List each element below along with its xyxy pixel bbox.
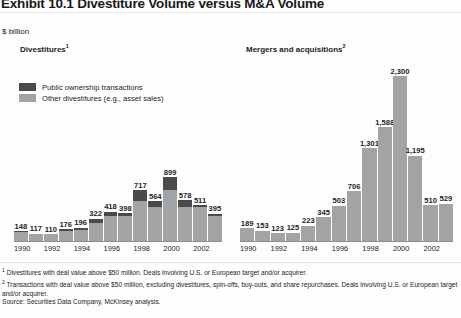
x-tick-label: 1992 xyxy=(271,242,287,256)
bar-segment-other-divestitures xyxy=(118,216,132,242)
divestitures-bars: 1481171101761963224183987175648995785113… xyxy=(14,52,222,242)
divestitures-x-tick-labels: 1990-1992-1994-1996-1998-2000-2002- xyxy=(14,242,222,256)
bar-value-label: 706 xyxy=(348,183,361,191)
bar-column: 153 xyxy=(255,52,269,242)
footnote-marker-2: 2 xyxy=(342,43,345,49)
bar-column: 345 xyxy=(316,52,330,242)
bar-value-label: 176 xyxy=(59,221,72,229)
bar-column: 510 xyxy=(423,52,437,242)
divestitures-bar-chart: 1481171101761963224183987175648995785113… xyxy=(14,52,222,242)
footnote-marker-1: 1 xyxy=(66,43,69,49)
bar-value-label: 1,588 xyxy=(375,119,394,127)
bar-value-label: 511 xyxy=(194,197,206,205)
footnote-1: 1 Divestitures with deal value above $50… xyxy=(2,266,459,278)
bar-column: 511 xyxy=(193,52,207,242)
bar-column: 223 xyxy=(301,52,315,242)
bar-segment xyxy=(378,127,392,242)
exhibit-page: Exhibit 10.1 Divestiture Volume versus M… xyxy=(0,0,461,318)
bar: 717 xyxy=(133,190,147,242)
bar-value-label: 123 xyxy=(271,225,284,233)
bar-segment-other-divestitures xyxy=(133,201,147,242)
bar-segment xyxy=(301,226,315,242)
bar-segment-other-divestitures xyxy=(104,216,118,242)
bar-value-label: 125 xyxy=(287,224,300,232)
bar-value-label: 395 xyxy=(209,205,222,213)
bar-segment xyxy=(439,204,453,242)
bar-value-label: 110 xyxy=(45,226,57,234)
mergers-bars: 1891531231252233455037061,3011,5882,3001… xyxy=(240,52,453,242)
footnote-1-text: Divestitures with deal value above $50 m… xyxy=(7,269,307,276)
bar: 1,301 xyxy=(362,148,376,242)
bar-value-label: 529 xyxy=(439,195,452,203)
bar-column: 717 xyxy=(133,52,147,242)
bar-column: 196 xyxy=(74,52,88,242)
bar-value-label: 223 xyxy=(302,217,315,225)
bar-segment-other-divestitures xyxy=(208,216,222,242)
bar-value-label: 153 xyxy=(256,222,269,230)
bar-column: 899 xyxy=(163,52,177,242)
exhibit-title: Exhibit 10.1 Divestiture Volume versus M… xyxy=(0,0,461,12)
units-label: $ billion xyxy=(2,27,29,36)
footnote-divider xyxy=(0,262,461,263)
bar-segment-other-divestitures xyxy=(178,207,192,242)
x-tick-label: 1998 xyxy=(133,242,149,256)
title-divider xyxy=(0,12,461,13)
bar-segment-other-divestitures xyxy=(193,207,207,242)
bar-column: 117 xyxy=(29,52,43,242)
bar-value-label: 899 xyxy=(164,169,177,177)
bar: 223 xyxy=(301,226,315,242)
bar-value-label: 148 xyxy=(15,223,28,231)
x-tick-label: 2002 xyxy=(193,242,209,256)
x-tick-label: 1994 xyxy=(74,242,90,256)
bar: 529 xyxy=(439,204,453,242)
footnotes-block: 1 Divestitures with deal value above $50… xyxy=(2,266,459,307)
x-tick-label: 1998 xyxy=(362,242,378,256)
bar-value-label: 117 xyxy=(30,225,42,233)
bar-value-label: 398 xyxy=(119,205,132,213)
x-tick-label: 1996 xyxy=(104,242,120,256)
bar-column: 578 xyxy=(178,52,192,242)
x-tick-label: 1996 xyxy=(332,242,348,256)
bar-column: 123 xyxy=(271,52,285,242)
bar-column: 110 xyxy=(44,52,58,242)
mergers-bar-chart: 1891531231252233455037061,3011,5882,3001… xyxy=(240,52,453,242)
bar-column: 395 xyxy=(208,52,222,242)
bar: 398 xyxy=(118,213,132,242)
bar-value-label: 717 xyxy=(134,182,147,190)
bar: 2,300 xyxy=(393,76,407,242)
bar-segment xyxy=(423,205,437,242)
footnote-source: Source: Securities Data Company, McKinse… xyxy=(2,298,459,307)
bar: 1,588 xyxy=(378,127,392,242)
bar-column: 322 xyxy=(89,52,103,242)
bar-value-label: 189 xyxy=(241,220,254,228)
bar-column: 1,588 xyxy=(378,52,392,242)
bar-value-label: 1,301 xyxy=(360,140,379,148)
footnote-1-marker: 1 xyxy=(2,267,5,273)
bar-column: 125 xyxy=(286,52,300,242)
bar: 345 xyxy=(316,217,330,242)
mergers-plot-area: 1891531231252233455037061,3011,5882,3001… xyxy=(240,52,453,242)
bar: 510 xyxy=(423,205,437,242)
x-tick-label: 1990 xyxy=(14,242,30,256)
bar: 511 xyxy=(193,205,207,242)
bar: 578 xyxy=(178,200,192,242)
bar-value-label: 1,195 xyxy=(406,147,425,155)
bar: 322 xyxy=(89,219,103,242)
bar: 189 xyxy=(240,228,254,242)
bar-column: 564 xyxy=(148,52,162,242)
footnote-2-marker: 2 xyxy=(2,279,5,285)
bar-column: 398 xyxy=(118,52,132,242)
x-tick-label: 2002 xyxy=(423,242,439,256)
footnote-2: 2 Transactions with deal value above $50… xyxy=(2,278,459,298)
bar-column: 176 xyxy=(59,52,73,242)
bar-value-label: 2,300 xyxy=(390,68,409,76)
bar: 706 xyxy=(347,191,361,242)
bar: 1,195 xyxy=(408,156,422,242)
bar: 503 xyxy=(332,206,346,242)
footnote-2-text: Transactions with deal value above $50 m… xyxy=(2,281,457,297)
bar-segment xyxy=(332,206,346,242)
bar-value-label: 503 xyxy=(332,197,345,205)
bar-value-label: 564 xyxy=(149,193,162,201)
bar-segment-public-ownership xyxy=(133,190,147,201)
bar-value-label: 510 xyxy=(424,197,437,205)
